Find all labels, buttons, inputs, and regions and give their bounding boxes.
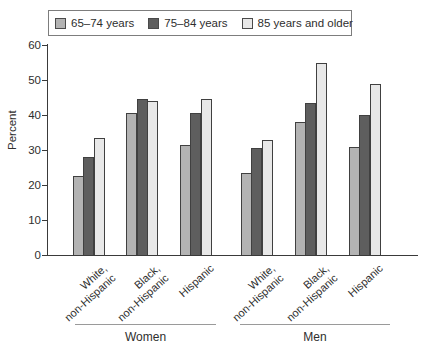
- bar-black-series-0: [295, 122, 306, 255]
- bar-white-series-1: [251, 148, 262, 255]
- legend-swatch-icon: [242, 18, 253, 29]
- bar-white-series-2: [262, 140, 273, 256]
- legend-label: 85 years and older: [258, 17, 353, 29]
- bar-hispanic-series-1: [190, 113, 201, 255]
- legend-label: 75–84 years: [164, 17, 227, 29]
- y-tick-mark: [42, 45, 47, 46]
- legend-item-2: 85 years and older: [242, 17, 353, 29]
- bar-hispanic-series-0: [349, 147, 360, 256]
- y-tick-label: 10: [11, 215, 41, 226]
- legend-label: 65–74 years: [71, 17, 134, 29]
- y-tick-mark: [42, 185, 47, 186]
- section-label-women: Women: [75, 330, 216, 344]
- x-category-label: White, non-Hispanic: [53, 262, 118, 324]
- section-line-men: [240, 324, 390, 325]
- x-category-label: Hispanic: [176, 262, 216, 300]
- bar-black-series-1: [137, 99, 148, 255]
- bar-hispanic-series-1: [359, 115, 370, 255]
- bar-black-series-0: [126, 113, 137, 255]
- section-line-women: [75, 324, 216, 325]
- bar-chart-figure: 65–74 years75–84 years85 years and older…: [0, 0, 429, 350]
- legend-item-0: 65–74 years: [55, 17, 134, 29]
- bar-white-series-1: [83, 157, 94, 255]
- legend-swatch-icon: [55, 18, 66, 29]
- y-tick-mark: [42, 80, 47, 81]
- y-tick-label: 0: [11, 250, 41, 261]
- y-tick-label: 20: [11, 180, 41, 191]
- y-tick-label: 40: [11, 110, 41, 121]
- bar-black-series-2: [316, 63, 327, 256]
- bar-hispanic-series-2: [201, 99, 212, 255]
- bar-white-series-0: [73, 176, 84, 255]
- legend-item-1: 75–84 years: [148, 17, 227, 29]
- bar-white-series-2: [94, 138, 105, 255]
- bar-black-series-2: [147, 101, 158, 255]
- chart-legend: 65–74 years75–84 years85 years and older: [48, 10, 352, 36]
- x-category-label: Black, non-Hispanic: [275, 262, 340, 324]
- y-tick-label: 50: [11, 75, 41, 86]
- section-label-men: Men: [240, 330, 390, 344]
- y-tick-mark: [42, 115, 47, 116]
- plot-area: 0102030405060: [47, 44, 418, 256]
- bar-hispanic-series-0: [180, 145, 191, 255]
- y-tick-mark: [42, 255, 47, 256]
- bar-white-series-0: [241, 173, 252, 255]
- x-category-label: Hispanic: [345, 262, 385, 300]
- y-tick-label: 60: [11, 40, 41, 51]
- y-tick-mark: [42, 150, 47, 151]
- bar-hispanic-series-2: [370, 84, 381, 256]
- x-category-label: White, non-Hispanic: [221, 262, 286, 324]
- x-category-label: Black, non-Hispanic: [106, 262, 171, 324]
- y-tick-label: 30: [11, 145, 41, 156]
- bar-black-series-1: [305, 103, 316, 255]
- y-tick-mark: [42, 220, 47, 221]
- legend-swatch-icon: [148, 18, 159, 29]
